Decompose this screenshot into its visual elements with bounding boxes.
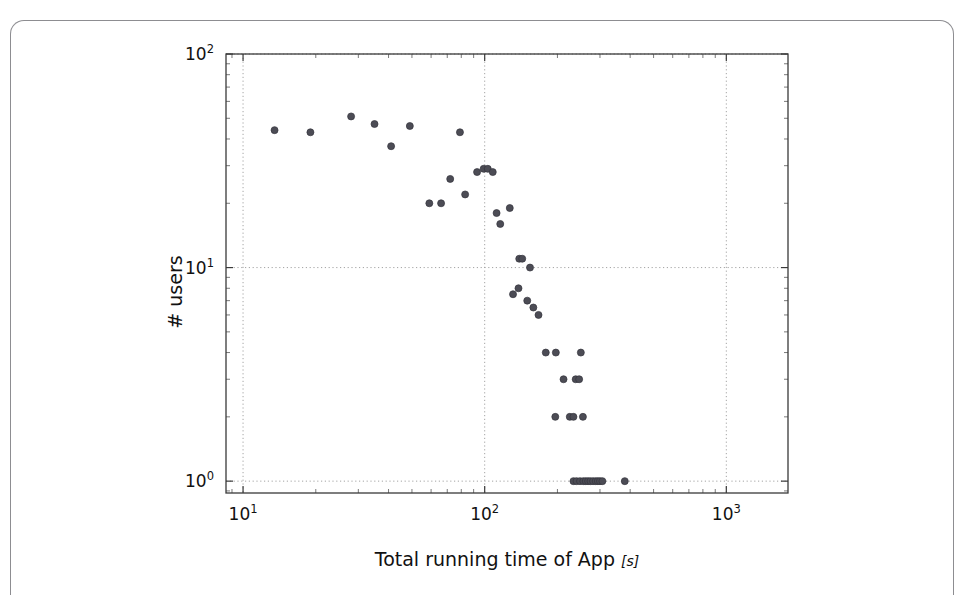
data-point <box>560 376 567 383</box>
data-point <box>519 255 526 262</box>
data-point <box>576 376 583 383</box>
data-point <box>462 191 469 198</box>
data-point <box>527 264 534 271</box>
data-point <box>497 220 504 227</box>
y-tick-labels: 100101102 <box>185 42 214 491</box>
data-point <box>426 200 433 207</box>
data-point <box>447 175 454 182</box>
tick-label: 102 <box>470 502 499 524</box>
data-point <box>271 127 278 134</box>
data-point <box>599 478 606 485</box>
data-point <box>406 123 413 130</box>
data-point <box>542 349 549 356</box>
data-point <box>388 143 395 150</box>
data-point <box>510 291 517 298</box>
axis-ticks <box>226 54 788 493</box>
data-point <box>577 349 584 356</box>
gridlines <box>226 54 788 493</box>
data-point <box>506 205 513 212</box>
x-axis-label: Total running time of App [s] <box>374 548 639 570</box>
scatter-plot-svg: 101102103 100101102 Total running time o… <box>11 21 955 576</box>
data-point <box>474 169 481 176</box>
data-point <box>493 210 500 217</box>
tick-label: 102 <box>185 42 214 64</box>
x-tick-labels: 101102103 <box>229 502 741 524</box>
tick-label: 100 <box>185 469 214 491</box>
figure-card: 101102103 100101102 Total running time o… <box>10 20 954 595</box>
data-point <box>348 113 355 120</box>
data-point <box>570 413 577 420</box>
data-point <box>621 478 628 485</box>
y-axis-label: # users <box>164 255 186 328</box>
scatter-figure: 101102103 100101102 Total running time o… <box>11 21 955 576</box>
plot-area-wrapper: 101102103 100101102 Total running time o… <box>11 21 955 576</box>
data-point <box>456 129 463 136</box>
tick-label: 101 <box>229 502 258 524</box>
data-point <box>515 285 522 292</box>
data-point <box>552 349 559 356</box>
data-point <box>524 297 531 304</box>
data-point <box>438 200 445 207</box>
data-point <box>552 413 559 420</box>
data-point <box>307 129 314 136</box>
data-point <box>530 304 537 311</box>
data-point <box>579 413 586 420</box>
data-point <box>371 121 378 128</box>
tick-label: 101 <box>185 256 214 278</box>
data-point <box>535 311 542 318</box>
axes-frame <box>226 54 788 493</box>
tick-label: 103 <box>712 502 741 524</box>
data-points <box>271 113 628 485</box>
data-point <box>489 169 496 176</box>
